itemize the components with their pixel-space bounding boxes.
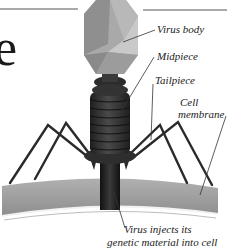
virus-head [84, 0, 138, 74]
leader-cell-membrane [200, 116, 226, 195]
label-injection-line1: Virus injects its [124, 223, 192, 235]
tail-sheath [90, 92, 130, 154]
collar [92, 72, 128, 96]
label-tailpiece: Tailpiece [155, 74, 195, 86]
label-midpiece: Midpiece [157, 50, 198, 62]
tail-fibers-left [10, 123, 88, 183]
label-injection-line2: genetic material into cell [107, 236, 217, 248]
label-cell-membrane-line1: Cell [180, 96, 198, 108]
bacteriophage-illustration [0, 0, 227, 249]
tail-fibers-right [132, 122, 212, 185]
virus-diagram: e [0, 0, 227, 249]
label-cell-membrane-line2: membrane [178, 108, 224, 120]
label-virus-body: Virus body [157, 23, 204, 35]
